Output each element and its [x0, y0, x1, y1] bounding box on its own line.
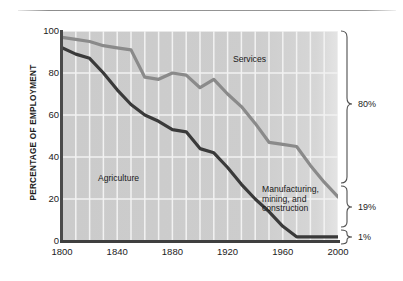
x-tick-label: 1800 — [42, 246, 82, 257]
bracket-label-manufacturing: 19% — [358, 202, 376, 212]
y-tick-label: 0 — [33, 235, 59, 246]
y-tick-label: 100 — [33, 25, 59, 36]
top-divider-rule — [18, 10, 396, 11]
y-tick-label: 80 — [33, 67, 59, 78]
x-axis-line — [60, 240, 340, 243]
right-axis-brackets — [338, 26, 358, 246]
y-tick-label: 40 — [33, 151, 59, 162]
x-tick-label: 1880 — [152, 246, 192, 257]
chart-figure: PERCENTAGE OF EMPLOYMENT 020406080100 18… — [0, 0, 403, 281]
x-tick-label: 1920 — [208, 246, 248, 257]
annotation-agriculture: Agriculture — [98, 174, 139, 184]
x-tick-label: 2000 — [318, 246, 358, 257]
bracket-label-agriculture: 1% — [358, 232, 371, 242]
annotation-services: Services — [233, 55, 266, 65]
annotation-manufacturing: Manufacturing, mining, and construction — [262, 185, 319, 214]
bracket-services — [341, 31, 352, 183]
x-tick-label: 1840 — [97, 246, 137, 257]
y-tick-label: 60 — [33, 109, 59, 120]
y-axis-line — [60, 30, 63, 242]
bracket-agriculture — [341, 230, 352, 244]
x-tick-label: 1960 — [263, 246, 303, 257]
y-axis-tick-labels: 020406080100 — [29, 0, 59, 281]
y-tick-label: 20 — [33, 193, 59, 204]
bracket-manufacturing — [341, 186, 352, 227]
bracket-label-services: 80% — [358, 99, 376, 109]
